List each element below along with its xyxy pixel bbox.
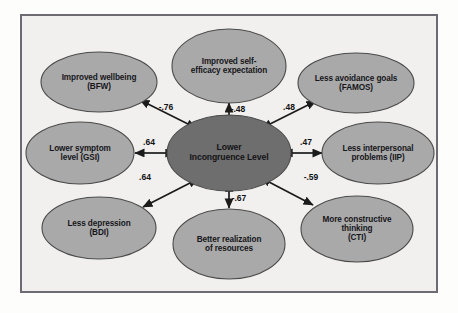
node-depression[interactable] [42,197,156,259]
coefficient-wellbeing: -.76 [159,102,174,112]
node-symptom-level[interactable] [26,122,134,184]
coefficient-self-efficacy: -.48 [231,104,246,114]
coefficient-realization-resources: -.67 [232,193,247,203]
coefficient-symptom-level: .64 [143,137,155,147]
coefficient-interpersonal-problems: .47 [300,137,312,147]
diagram-canvas [0,0,458,313]
node-self-efficacy[interactable] [172,29,286,103]
coefficient-constructive-thinking: -.59 [304,172,319,182]
node-realization-resources[interactable] [173,209,285,279]
nodes-group [26,29,434,279]
edge-depression [143,183,190,207]
node-avoidance-goals[interactable] [298,53,414,113]
figure-container: Improved wellbeing(BFW)Improved self-eff… [0,0,458,313]
node-constructive-thinking[interactable] [301,196,413,262]
edge-constructive-thinking [269,182,313,205]
node-interpersonal-problems[interactable] [322,122,434,184]
node-wellbeing[interactable] [41,52,157,112]
coefficient-avoidance-goals: .48 [283,102,295,112]
coefficient-depression: .64 [139,172,151,182]
node-incongruence[interactable] [167,115,291,191]
